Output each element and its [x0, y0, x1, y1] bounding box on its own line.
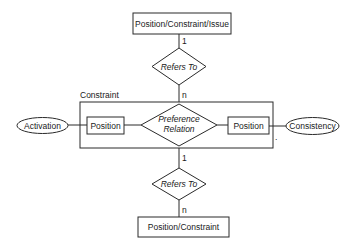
entity-position-constraint-issue[interactable]: Position/Constraint/Issue	[133, 13, 231, 34]
entity-position-constraint[interactable]: Position/Constraint	[138, 217, 229, 237]
svg-text:Position: Position	[233, 121, 264, 131]
entity-position-left[interactable]: Position	[87, 117, 124, 134]
svg-text:Activation: Activation	[24, 121, 61, 131]
relationship-preference-relation[interactable]: Preference Relation	[141, 104, 217, 146]
svg-text:Preference: Preference	[158, 114, 200, 124]
svg-text:Consistency: Consistency	[289, 121, 336, 131]
entity-position-right[interactable]: Position	[228, 117, 269, 134]
svg-text:Relation: Relation	[163, 124, 194, 134]
er-diagram: Position/Constraint/Issue 1 Refers To n …	[0, 0, 358, 250]
svg-text:Position: Position	[90, 121, 121, 131]
svg-text:Position/Constraint/Issue: Position/Constraint/Issue	[135, 19, 229, 29]
svg-text:Refers To: Refers To	[161, 62, 198, 72]
attribute-activation[interactable]: Activation	[17, 118, 68, 134]
cardinality-bottom-1: 1	[182, 153, 187, 163]
attribute-consistency[interactable]: Consistency	[286, 118, 339, 135]
cardinality-top-n: n	[182, 90, 187, 100]
svg-text:Position/Constraint: Position/Constraint	[148, 222, 220, 232]
constraint-group-label: Constraint	[80, 90, 119, 100]
relationship-refers-to-bottom[interactable]: Refers To	[152, 168, 206, 200]
relationship-refers-to-top[interactable]: Refers To	[152, 48, 206, 85]
cardinality-bottom-n: n	[182, 205, 187, 215]
svg-text:Refers To: Refers To	[161, 179, 198, 189]
stray-mark: .	[275, 132, 277, 142]
cardinality-top-1: 1	[182, 36, 187, 46]
